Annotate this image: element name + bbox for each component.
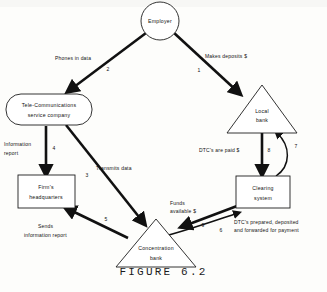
edge-8-number: 8 [268, 147, 271, 153]
edge-5-label-line2: information report [24, 232, 67, 238]
edge-3-number: 3 [86, 172, 89, 178]
node-employer[interactable]: Employer [141, 2, 179, 40]
edge-2-number: 2 [107, 66, 110, 72]
edge-7-number: 7 [295, 143, 298, 149]
node-telecom-label-line1: Tele-Communications [22, 102, 77, 108]
flow-diagram: Makes deposits $ 1 Phones in data 2 Tran… [0, 0, 327, 292]
edge-8-dtcs-are-paid: DTC's are paid $ 8 [199, 133, 271, 172]
edge-9-number: 9 [202, 222, 205, 228]
edge-3-transmits-data: Transmits data 3 [66, 125, 143, 222]
node-concentration-bank-label-line1: Concentration [138, 245, 174, 251]
edge-4-label-line2: report [4, 150, 19, 156]
edge-2-phones-in-data: Phones in data 2 [55, 33, 146, 90]
edge-8-label-line1: DTC's are paid $ [199, 147, 240, 153]
node-concentration-bank[interactable]: Concentration bank [116, 219, 196, 267]
edge-5-label-line1: Sends [38, 223, 53, 229]
node-employer-label: Employer [148, 18, 172, 24]
edge-4-information-report: Information report 4 [4, 126, 56, 172]
edge-9-label-line1: Funds [170, 200, 185, 206]
node-firms-hq-label-line2: headquarters [29, 194, 63, 200]
node-telecom[interactable]: Tele-Communications service company [6, 94, 92, 125]
edge-5-number: 5 [105, 216, 108, 222]
edge-6-label-line1: DTC's prepared, deposited [234, 219, 299, 225]
edge-1-number: 1 [198, 67, 201, 73]
node-telecom-label-line2: service company [28, 112, 71, 118]
node-clearing-system-label-line1: Clearing [252, 185, 273, 191]
node-local-bank-label-line1: Local [255, 108, 269, 114]
edge-6-number: 6 [220, 227, 223, 233]
edge-5-sends-information-report: Sends information report 5 [24, 209, 128, 238]
edge-3-label-line1: Transmits data [96, 165, 132, 171]
edge-2-label-line1: Phones in data [55, 55, 91, 61]
node-concentration-bank-label-line2: bank [150, 255, 162, 261]
node-firms-hq-label-line1: Firm's [38, 184, 54, 190]
node-clearing-system-label-line2: system [254, 195, 272, 201]
edge-4-label-line1: Information [4, 141, 31, 147]
node-firms-headquarters[interactable]: Firm's headquarters [18, 175, 75, 208]
figure-caption: FIGURE 6.2 [0, 266, 327, 278]
edge-6-dtcs-prepared: DTC's prepared, deposited and forwarded … [150, 213, 299, 240]
edge-7-return-to-local-bank: 7 [276, 133, 298, 176]
node-local-bank-label-line2: bank [256, 117, 268, 123]
node-clearing-system[interactable]: Clearing system [236, 176, 290, 208]
edge-4-number: 4 [53, 145, 56, 151]
edge-6-label-line2: and forwarded for payment [234, 227, 299, 233]
edge-9-label-line2: available $ [170, 208, 196, 214]
edge-1-makes-deposits: Makes deposits $ 1 [173, 32, 247, 92]
edge-1-label-line1: Makes deposits $ [205, 53, 247, 59]
